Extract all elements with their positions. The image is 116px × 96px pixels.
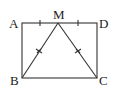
label-m: M — [53, 7, 65, 22]
label-a: A — [9, 16, 19, 31]
tick-mc — [75, 49, 81, 53]
label-c: C — [99, 73, 108, 88]
label-d: D — [99, 16, 108, 31]
rectangle-abcd — [22, 23, 97, 78]
label-b: B — [10, 73, 19, 88]
geometry-diagram: A M D B C — [0, 0, 116, 96]
